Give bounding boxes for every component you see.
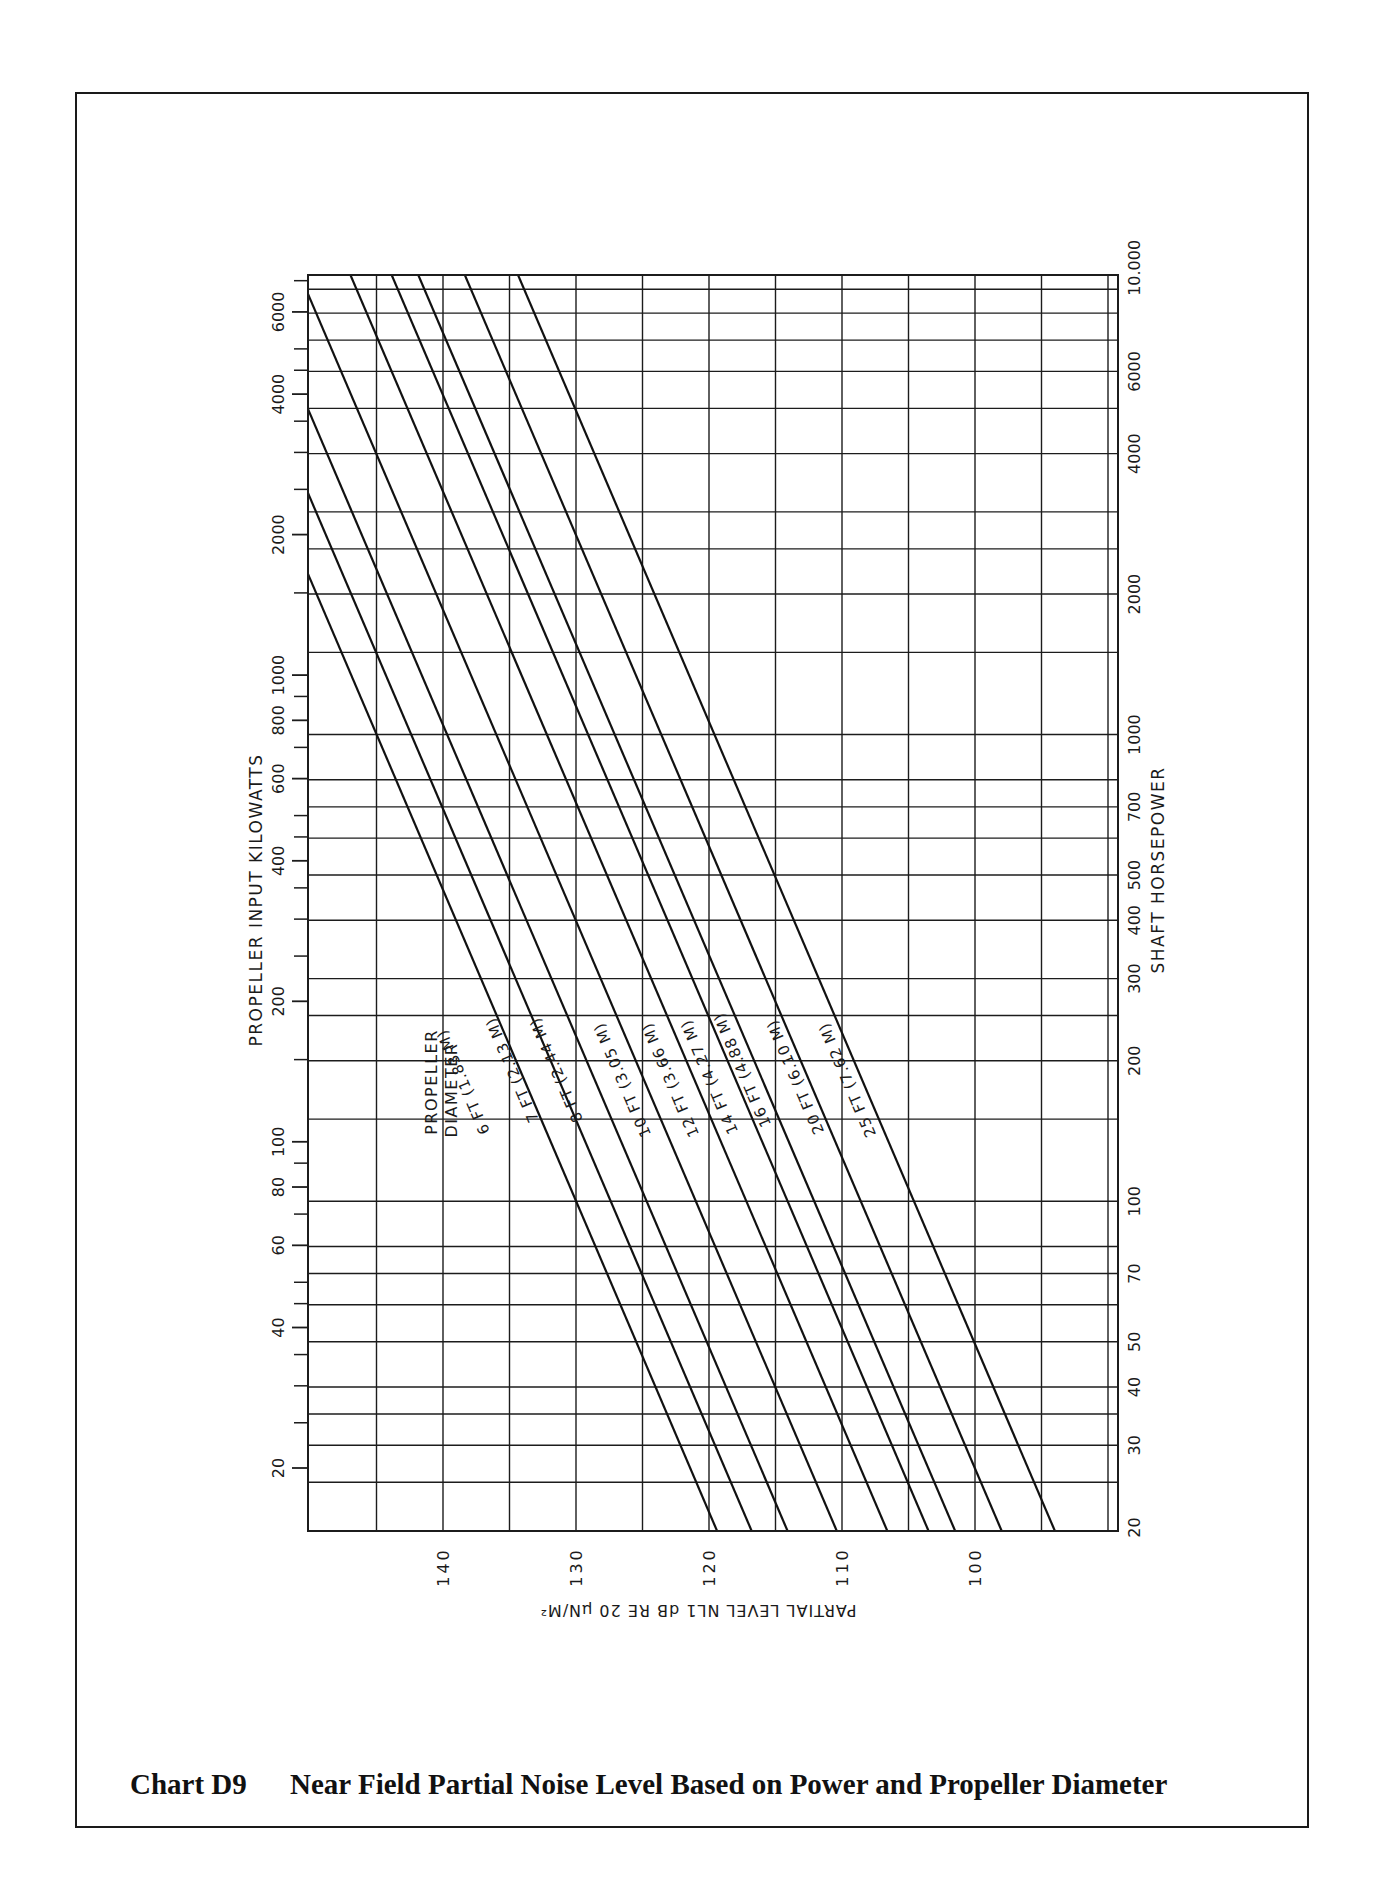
x-tick-label: 110 <box>833 1547 852 1587</box>
y-tick-label-left: 80 <box>269 1177 288 1197</box>
y-tick-label-left: 60 <box>269 1235 288 1255</box>
y-tick-label-right: 20 <box>1125 1517 1144 1537</box>
axis-titles: PROPELLER INPUT KILOWATTS SHAFT HORSEPOW… <box>246 754 1168 1620</box>
x-tick-label: 130 <box>567 1547 586 1587</box>
y-tick-label-right: 6000 <box>1125 351 1144 392</box>
diameter-line <box>306 171 920 1608</box>
y-tick-label-right: 2000 <box>1125 574 1144 615</box>
y-tick-label-left: 400 <box>269 846 288 877</box>
diameter-line <box>474 171 1088 1608</box>
y-tick-label-left: 40 <box>269 1317 288 1337</box>
diameter-line <box>347 171 961 1608</box>
y-tick-label-left: 200 <box>269 986 288 1017</box>
y-tick-label-left: 6000 <box>269 292 288 333</box>
left-axis-title: PROPELLER INPUT KILOWATTS <box>246 754 266 1047</box>
legend-label-diameter: DIAMETER <box>442 1043 461 1138</box>
y-tick-label-left: 2000 <box>269 514 288 555</box>
plot-border <box>308 275 1118 1531</box>
nomograph-chart: 2040608010020040060080010002000400060002… <box>0 0 1384 1899</box>
y-tick-label-right: 100 <box>1125 1186 1144 1217</box>
y-tick-label-right: 70 <box>1125 1263 1144 1283</box>
right-axis-title: SHAFT HORSEPOWER <box>1148 767 1168 974</box>
y-tick-label-right: 30 <box>1125 1435 1144 1455</box>
chart-title: Near Field Partial Noise Level Based on … <box>290 1768 1167 1800</box>
x-tick-label: 100 <box>966 1547 985 1587</box>
y-tick-label-right: 50 <box>1125 1332 1144 1352</box>
y-tick-label-right: 500 <box>1125 860 1144 891</box>
y-tick-label-left: 800 <box>269 705 288 736</box>
x-tick-label: 140 <box>434 1547 453 1587</box>
y-tick-label-right: 200 <box>1125 1046 1144 1077</box>
y-tick-label-left: 100 <box>269 1127 288 1158</box>
y-tick-label-right: 4000 <box>1125 433 1144 474</box>
diameter-label: 25 FT (7.62 M) <box>815 1020 880 1140</box>
legend-label-propeller: PROPELLER <box>422 1029 441 1135</box>
y-tick-label-right: 700 <box>1125 792 1144 823</box>
grid-lines <box>308 275 1118 1531</box>
y-tick-label-right: 400 <box>1125 905 1144 936</box>
y-tick-label-left: 600 <box>269 763 288 794</box>
chart-caption: Chart D9Near Field Partial Noise Level B… <box>130 1768 1167 1801</box>
diameter-line <box>374 171 988 1608</box>
series-labels: 6 FT (1.83 M)7 FT (2.13 M)8 FT (2.44 M)1… <box>433 1010 880 1140</box>
y-tick-label-left: 1000 <box>269 655 288 696</box>
y-tick-label-left: 20 <box>269 1458 288 1478</box>
chart-number: Chart D9 <box>130 1768 290 1801</box>
y-tick-label-left: 4000 <box>269 374 288 415</box>
y-tick-label-right: 1000 <box>1125 714 1144 755</box>
x-tick-label: 120 <box>700 1547 719 1587</box>
bottom-axis-title: PARTIAL LEVEL NL1 dB RE 20 µN/M² <box>540 1601 857 1620</box>
y-tick-label-right: 40 <box>1125 1377 1144 1397</box>
diameter-line <box>256 171 870 1608</box>
axes: 2040608010020040060080010002000400060002… <box>269 240 1144 1587</box>
y-tick-label-right: 10.000 <box>1125 240 1144 296</box>
y-tick-label-right: 300 <box>1125 963 1144 994</box>
